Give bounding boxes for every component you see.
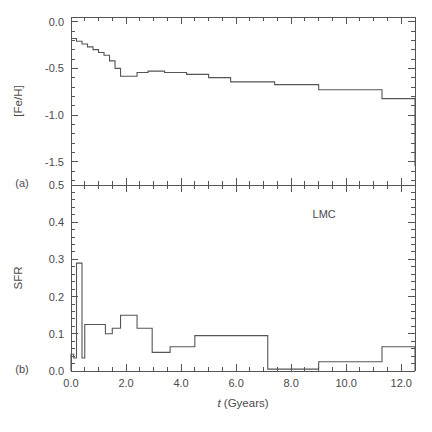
panel-b-y-tick-label: 0.2 bbox=[49, 291, 64, 303]
sfr-histogram bbox=[71, 263, 415, 371]
panel-a-frame bbox=[71, 17, 415, 185]
x-tick-label: 4.0 bbox=[173, 377, 188, 389]
panel-b-y-tick-label: 0.0 bbox=[49, 365, 64, 377]
two-panel-plot: 0.02.04.06.08.010.012.00.0-0.5-1.0-1.50.… bbox=[0, 0, 432, 432]
panel-a-label: (a) bbox=[15, 177, 28, 189]
figure-root: 0.02.04.06.08.010.012.00.0-0.5-1.0-1.50.… bbox=[0, 0, 432, 432]
x-tick-label: 0.0 bbox=[63, 377, 78, 389]
x-tick-label: 10.0 bbox=[335, 377, 356, 389]
lmc-annotation: LMC bbox=[313, 208, 336, 220]
panel-b-y-tick-label: 0.3 bbox=[49, 253, 64, 265]
panel-a-y-tick-label: -1.0 bbox=[45, 109, 64, 121]
panel-b-y-axis-label: SFR bbox=[12, 267, 24, 290]
panel-b-y-ticks bbox=[71, 185, 415, 371]
x-tick-label: 12.0 bbox=[391, 377, 412, 389]
panel-a-y-tick-label: -0.5 bbox=[45, 62, 64, 74]
x-axis-ticks bbox=[71, 17, 415, 185]
x-tick-label: 8.0 bbox=[284, 377, 299, 389]
panel-b-y-tick-label: 0.5 bbox=[49, 179, 64, 191]
panel-a-y-axis-label: [Fe/H] bbox=[12, 85, 24, 116]
panel-a-y-tick-label: -1.5 bbox=[45, 156, 64, 168]
feh-step-curve bbox=[71, 38, 415, 166]
x-tick-label: 6.0 bbox=[228, 377, 243, 389]
panel-b-label: (b) bbox=[15, 363, 28, 375]
panel-a-y-ticks bbox=[71, 22, 415, 181]
x-tick-label: 2.0 bbox=[118, 377, 133, 389]
panel-b-frame bbox=[71, 185, 415, 371]
panel-b-y-tick-label: 0.4 bbox=[49, 216, 64, 228]
panel-b-y-tick-label: 0.1 bbox=[49, 328, 64, 340]
x-axis-label: t (Gyears) bbox=[217, 397, 268, 409]
x-axis-ticks bbox=[71, 185, 415, 371]
panel-a-y-tick-label: 0.0 bbox=[49, 16, 64, 28]
